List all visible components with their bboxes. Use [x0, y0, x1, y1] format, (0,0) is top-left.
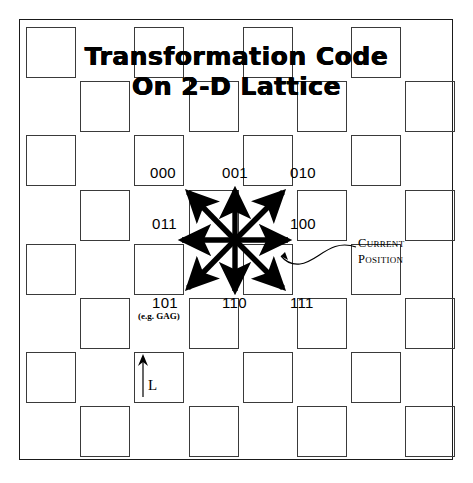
lattice-cell [26, 27, 76, 78]
lattice-cell [26, 135, 76, 186]
lattice-cell [134, 352, 184, 403]
code-label-110: 110 [222, 294, 247, 311]
lattice-cell [243, 27, 293, 78]
lattice-cell [351, 352, 401, 403]
figure-canvas: Transformation Code On 2-D Lattice [0, 0, 473, 483]
lattice-cell [80, 190, 130, 241]
code-label-010: 010 [290, 164, 316, 181]
annotation-line-1: Current [358, 236, 404, 252]
lattice-cell [189, 406, 239, 457]
code-label-000: 000 [150, 164, 176, 181]
lattice-cell [405, 190, 455, 241]
lattice-cell [243, 352, 293, 403]
lattice-cell [243, 135, 293, 186]
lattice-cell [80, 298, 130, 349]
lattice-cell [405, 298, 455, 349]
lattice-cell [189, 81, 239, 132]
code-label-101: 101 [152, 294, 178, 311]
lattice-cell [351, 27, 401, 78]
lattice-cell [243, 244, 293, 295]
code-label-001: 001 [222, 164, 248, 181]
lattice-cell [26, 352, 76, 403]
lattice-cell [26, 244, 76, 295]
lattice-cell [80, 406, 130, 457]
lattice-cell [297, 81, 347, 132]
code-label-011: 011 [152, 215, 177, 232]
code-label-111: 111 [290, 294, 314, 311]
lattice-cell [405, 81, 455, 132]
code-sublabel-101: (e.g. GAG) [138, 311, 180, 321]
lattice-cell [297, 406, 347, 457]
scale-label-L: L [148, 377, 157, 394]
annotation-line-2: Position [358, 252, 404, 268]
code-label-100: 100 [290, 215, 316, 232]
lattice-cell [80, 81, 130, 132]
current-position-annotation: Current Position [358, 236, 404, 267]
lattice-cell [405, 406, 455, 457]
lattice-cell [351, 135, 401, 186]
lattice-cell [189, 190, 239, 241]
lattice-cell [134, 244, 184, 295]
lattice-cell [134, 27, 184, 78]
